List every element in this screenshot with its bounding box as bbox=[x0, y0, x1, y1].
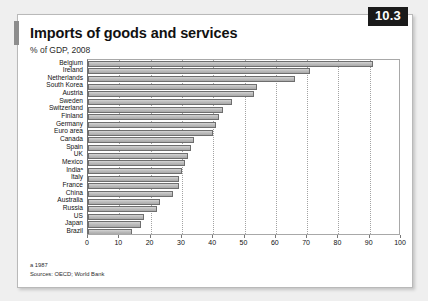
tick-label-20: 20 bbox=[146, 239, 154, 246]
category-label-brazil: Brazil bbox=[67, 228, 84, 235]
category-label-australia: Australia bbox=[57, 197, 83, 204]
tick-mark-70 bbox=[306, 235, 307, 238]
tick-label-50: 50 bbox=[240, 239, 248, 246]
sources-line: Sources: OECD; World Bank bbox=[30, 270, 104, 279]
category-label-mexico: Mexico bbox=[62, 159, 83, 166]
tick-label-30: 30 bbox=[177, 239, 185, 246]
category-label-us: US bbox=[74, 213, 83, 220]
tick-label-80: 80 bbox=[333, 239, 341, 246]
bar-russia bbox=[88, 206, 157, 212]
chart-subtitle: % of GDP, 2008 bbox=[30, 45, 90, 55]
bar-mexico bbox=[88, 160, 185, 166]
tick-mark-100 bbox=[400, 235, 401, 238]
bar-netherlands bbox=[88, 76, 295, 82]
category-label-china: China bbox=[66, 190, 83, 197]
category-label-sweden: Sweden bbox=[59, 98, 83, 105]
page-background: 10.3 Imports of goods and services % of … bbox=[0, 0, 428, 301]
category-label-netherlands: Netherlands bbox=[47, 75, 83, 82]
bar-spain bbox=[88, 145, 191, 151]
category-label-italy: Italy bbox=[71, 174, 83, 181]
tick-mark-90 bbox=[369, 235, 370, 238]
bar-france bbox=[88, 183, 179, 189]
footnotes: a 1987 Sources: OECD; World Bank bbox=[30, 261, 104, 279]
bar-south-korea bbox=[88, 84, 257, 90]
tick-label-0: 0 bbox=[85, 239, 89, 246]
chart-card: 10.3 Imports of goods and services % of … bbox=[17, 14, 413, 288]
plot-area bbox=[87, 59, 400, 235]
bar-belgium bbox=[88, 61, 373, 67]
tick-label-90: 90 bbox=[365, 239, 373, 246]
category-label-finland: Finland bbox=[61, 113, 83, 120]
footnote-a: a 1987 bbox=[30, 261, 104, 270]
bar-italy bbox=[88, 176, 179, 182]
category-label-ireland: Ireland bbox=[63, 67, 83, 74]
tick-mark-30 bbox=[181, 235, 182, 238]
tick-label-10: 10 bbox=[114, 239, 122, 246]
bar-sweden bbox=[88, 99, 232, 105]
category-label-france: France bbox=[62, 182, 83, 189]
tick-label-40: 40 bbox=[208, 239, 216, 246]
category-label-india: Indiaᵃ bbox=[66, 167, 83, 174]
category-label-spain: Spain bbox=[66, 144, 83, 151]
category-label-russia: Russia bbox=[63, 205, 83, 212]
category-label-uk: UK bbox=[74, 151, 83, 158]
bar-australia bbox=[88, 199, 160, 205]
bar-china bbox=[88, 191, 173, 197]
bar-ireland bbox=[88, 68, 310, 74]
tick-label-70: 70 bbox=[302, 239, 310, 246]
page-title: Imports of goods and services bbox=[30, 25, 237, 41]
tick-mark-80 bbox=[337, 235, 338, 238]
tick-mark-10 bbox=[118, 235, 119, 238]
tick-mark-0 bbox=[87, 235, 88, 238]
bar-finland bbox=[88, 114, 219, 120]
bar-uk bbox=[88, 153, 188, 159]
category-label-japan: Japan bbox=[65, 220, 83, 227]
bar-austria bbox=[88, 91, 254, 97]
tick-label-60: 60 bbox=[271, 239, 279, 246]
card-edge-tab bbox=[14, 21, 19, 45]
tick-mark-20 bbox=[150, 235, 151, 238]
tick-mark-40 bbox=[212, 235, 213, 238]
tick-label-100: 100 bbox=[394, 239, 406, 246]
bar-india bbox=[88, 168, 182, 174]
category-label-belgium: Belgium bbox=[59, 60, 83, 67]
category-label-austria: Austria bbox=[62, 90, 83, 97]
bar-canada bbox=[88, 137, 194, 143]
value-axis: 0102030405060708090100 bbox=[87, 235, 400, 255]
tick-mark-50 bbox=[244, 235, 245, 238]
category-label-euro-area: Euro area bbox=[54, 128, 83, 135]
chart-number-badge: 10.3 bbox=[368, 7, 408, 26]
category-label-canada: Canada bbox=[60, 136, 83, 143]
bar-japan bbox=[88, 221, 141, 227]
category-label-switzerland: Switzerland bbox=[49, 105, 83, 112]
bar-us bbox=[88, 214, 144, 220]
category-axis-labels: BelgiumIrelandNetherlandsSouth KoreaAust… bbox=[18, 59, 85, 235]
category-label-south-korea: South Korea bbox=[46, 82, 83, 89]
bar-euro-area bbox=[88, 130, 213, 136]
bars-container bbox=[88, 60, 399, 234]
category-label-germany: Germany bbox=[56, 121, 83, 128]
bar-switzerland bbox=[88, 107, 223, 113]
bar-germany bbox=[88, 122, 216, 128]
tick-mark-60 bbox=[275, 235, 276, 238]
